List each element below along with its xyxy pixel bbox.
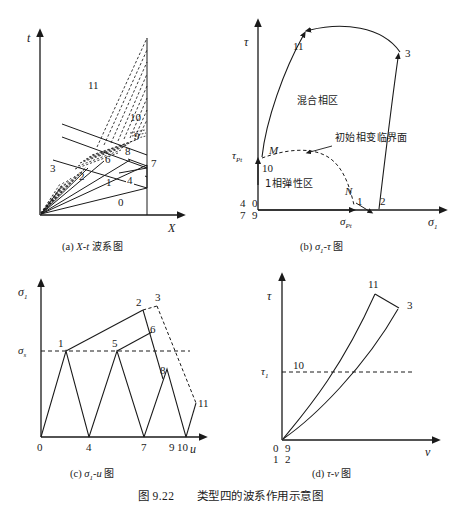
panel-a-svg [0,0,235,255]
panel-a-region-7: 7 [151,158,157,169]
panel-d-origin-2: 2 [285,454,291,465]
panel-d-state-10: 10 [293,360,304,371]
panel-b-state-9: 9 [252,210,258,221]
panel-a-subcaption-text: 波系图 [92,241,123,252]
panel-c-state-11: 11 [198,398,209,409]
panel-a-y-axis-label: t [27,32,30,44]
panel-b-point-N: N [345,186,352,197]
figure-caption-number: 图 9.22 [138,490,175,502]
panel-b-y-tick-tau-pt: τPt [232,150,242,164]
panel-c-sigma-u-diagram: σ1 u σs 0 4 7 9 10 1 2 3 5 6 8 11 [0,262,235,482]
panel-a-subcaption: (a) X-t 波系图 [62,238,123,253]
panel-c-state-6: 6 [150,324,156,335]
panel-a-subcaption-axes: X-t [76,241,89,252]
panel-a-region-1: 1 [106,177,112,188]
panel-b-sigma-tau-diagram: τ σ1 τPt σPt 混合相区 1相弹性区 初始相变临界面 M N 11 3… [232,0,461,255]
panel-c-xtick-7: 7 [141,442,147,453]
panel-a-region-0: 0 [118,197,124,208]
panel-c-xtick-4: 4 [86,442,92,453]
panel-b-tau-sub: Pt [236,156,242,164]
panel-d-subcaption-text: 图 [341,468,351,479]
figure-main-caption: 图 9.22 类型四的波系作用示意图 [0,487,461,503]
panel-b-subcaption-axes: σ1-τ [315,241,331,252]
panel-b-annotation-leader [310,146,332,152]
panel-d-subcaption: (d) τ-v 图 [312,465,352,480]
panel-a-region-9: 9 [134,131,140,142]
panel-a-region-11: 11 [88,80,99,91]
panel-a-characteristic-rays [41,160,147,214]
panel-b-critical-surface-annotation: 初始相变临界面 [335,133,408,143]
panel-b-x-tick-sigma-pt: σPt [340,216,352,230]
panel-b-state-0: 0 [252,198,258,209]
panel-c-tick-sub: s [23,351,26,359]
panel-b-elastic-phase-region-label: 1相弹性区 [265,179,313,189]
panel-c-state-3: 3 [155,292,161,303]
panel-d-tau-v-diagram: τ v τ1 0 9 1 2 11 3 10 [235,262,461,482]
figure-container: t X 0 1 2 3 3 6 7 8 9 10 11 4 [0,0,461,510]
panel-b-state-7: 7 [240,210,246,221]
panel-b-x-axis-label: σ1 [428,216,437,231]
panel-a-subcaption-index: (a) [62,241,74,252]
panel-c-state-1: 1 [58,338,64,349]
panel-d-tick-sub: 1 [265,372,269,380]
panel-c-xtick-10: 10 [177,442,188,453]
panel-b-state-10: 10 [262,163,273,174]
panel-c-zigzag-paths [41,351,196,437]
panel-a-region-6: 6 [105,154,111,165]
figure-caption-text: 类型四的波系作用示意图 [197,489,324,503]
panel-c-state-2: 2 [136,297,142,308]
panel-a-region-4-value: 4 [126,175,134,186]
panel-a-xt-wave-diagram: t X 0 1 2 3 3 6 7 8 9 10 11 4 [0,0,235,255]
panel-c-xtick-9: 9 [169,442,175,453]
panel-b-x-axis-sub: 1 [434,223,438,231]
panel-d-origin-1: 1 [273,454,279,465]
panel-a-region-3: 3 [50,163,56,174]
panel-b-state-3: 3 [405,48,411,59]
panel-d-segment-11-to-3 [375,294,399,308]
panel-b-state-1: 1 [357,196,363,207]
panel-d-subcaption-index: (d) [312,468,324,479]
panel-b-subcaption: (b) σ1-τ 图 [300,238,344,255]
panel-a-region-8: 8 [125,146,131,157]
panel-b-state-4: 4 [240,198,246,209]
panel-c-x-axis-label: u [190,443,196,455]
panel-b-sigma-sub: Pt [345,222,351,230]
panel-a-region-2: 2 [79,171,85,182]
panel-c-subcaption: (c) σ1-u 图 [70,465,115,482]
panel-c-svg [0,262,235,482]
panel-b-y-axis-label: τ [244,36,248,48]
panel-d-y-axis-label: τ [267,290,271,302]
panel-c-y-sub: 1 [24,293,28,301]
panel-d-state-3: 3 [407,300,413,311]
panel-d-subcaption-axes: τ-v [327,468,339,479]
panel-c-y-tick-sigma-s: σs [18,345,26,359]
panel-b-subcaption-text: 图 [333,241,343,252]
panel-a-x-axis-label: X [168,222,175,234]
panel-b-state-2: 2 [380,196,386,207]
panel-c-state-5: 5 [112,338,118,349]
panel-c-y-axis-label: σ1 [18,286,27,301]
panel-d-x-axis-label: v [425,446,430,458]
panel-c-xtick-0: 0 [37,442,43,453]
panel-d-y-tick-tau-1: τ1 [261,366,268,380]
panel-b-mixed-phase-region-label: 混合相区 [297,96,339,106]
panel-b-state-11: 11 [293,41,304,52]
panel-d-state-11: 11 [368,279,379,290]
panel-b-path-3-to-11 [310,26,400,52]
panel-b-subcaption-index: (b) [300,241,312,252]
panel-c-state-8: 8 [160,365,166,376]
panel-d-curve-0-to-3 [283,309,398,439]
panel-c-subcaption-index: (c) [70,468,82,479]
panel-b-point-M: M [269,145,278,156]
panel-c-subcaption-text: 图 [104,468,114,479]
panel-a-region-10: 10 [130,112,141,123]
panel-c-subcaption-axes: σ1-u [84,468,101,479]
panel-c-dashed-path-3-to-11 [143,306,196,403]
